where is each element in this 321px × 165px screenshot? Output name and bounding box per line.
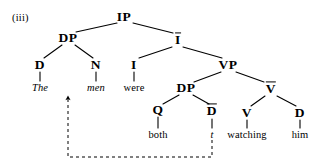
tree-branch: [194, 72, 221, 82]
tree-branch: [76, 23, 117, 32]
tree-branch: [251, 96, 265, 106]
tree-node-i0: I: [131, 58, 137, 72]
tree-node-dp2: DP: [176, 81, 195, 95]
tree-node-v0: V: [242, 106, 252, 120]
tree-terminal-both: both: [148, 130, 167, 141]
tree-node-dp1: DP: [58, 31, 77, 45]
tree-terminal-men: men: [87, 83, 105, 94]
tree-branch: [75, 45, 93, 58]
tree-terminal-were: were: [124, 83, 145, 94]
branch-lines: [40, 23, 300, 128]
movement-arrow: [68, 98, 212, 157]
tree-branch: [277, 96, 296, 106]
tree-terminal-the: The: [32, 83, 48, 94]
tree-branch: [133, 23, 173, 33]
tree-terminal-trace: t: [210, 130, 213, 141]
movement-arrow-path: [68, 98, 212, 157]
tree-branch: [139, 47, 172, 58]
tree-node-ibar: I: [175, 32, 181, 47]
tree-node-d1: D: [35, 58, 45, 72]
tree-terminal-him: him: [292, 130, 309, 141]
tree-branch: [163, 95, 179, 104]
tree-node-vp: VP: [218, 58, 237, 72]
tree-branch: [44, 45, 62, 58]
tree-branch: [236, 72, 264, 82]
syntax-tree-figure: (iii) IPDPIDNIVPDPVQDVDThemenwerebothtwa…: [0, 0, 321, 165]
tree-terminal-watching: watching: [227, 130, 266, 141]
tree-node-vbar: V: [266, 81, 276, 96]
tree-node-ip: IP: [117, 10, 132, 24]
tree-node-dbar: D: [207, 103, 217, 118]
tree-node-q: Q: [152, 103, 163, 117]
tree-node-n1: N: [91, 58, 101, 72]
tree-branch: [183, 47, 222, 58]
tree-node-d2: D: [295, 106, 305, 120]
